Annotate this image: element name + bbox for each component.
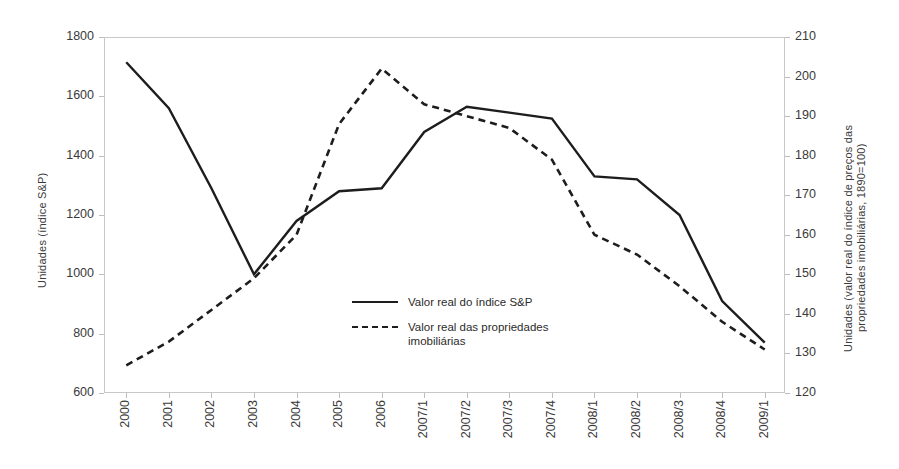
x-axis-tick-mark bbox=[637, 393, 638, 398]
y-right-tick-label: 150 bbox=[795, 266, 835, 280]
y-right-tick-label: 190 bbox=[795, 108, 835, 122]
y-left-tick-label: 1000 bbox=[48, 266, 94, 280]
x-axis-tick-mark bbox=[339, 393, 340, 398]
y-right-tick-mark bbox=[785, 77, 790, 78]
x-axis-tick: 2009/1 bbox=[757, 400, 771, 462]
x-axis-tick-label: 2009/1 bbox=[757, 400, 771, 438]
x-axis-tick: 2007/4 bbox=[544, 400, 558, 462]
y-right-tick-mark bbox=[785, 393, 790, 394]
x-axis-tick-label: 2007/4 bbox=[544, 400, 558, 438]
x-axis-tick-mark bbox=[211, 393, 212, 398]
y-left-tick-label: 600 bbox=[48, 385, 94, 399]
y-left-tick-mark bbox=[99, 393, 104, 394]
x-axis-tick: 2002 bbox=[203, 400, 217, 462]
x-axis-tick: 2007/3 bbox=[501, 400, 515, 462]
y-right-tick-label: 210 bbox=[795, 29, 835, 43]
y-left-tick-label: 800 bbox=[48, 326, 94, 340]
x-axis-tick: 2003 bbox=[246, 400, 260, 462]
x-axis-tick: 2008/3 bbox=[672, 400, 686, 462]
x-axis-tick-label: 2008/3 bbox=[672, 400, 686, 438]
x-axis-tick-mark bbox=[382, 393, 383, 398]
legend-item[interactable]: Valor real do índice S&P bbox=[352, 295, 612, 309]
line-chart: Unidades (índice S&P) Unidades (valor re… bbox=[0, 0, 899, 469]
x-axis-tick: 2005 bbox=[331, 400, 345, 462]
y-right-tick-label: 160 bbox=[795, 227, 835, 241]
y-right-tick-label: 130 bbox=[795, 345, 835, 359]
x-axis-tick: 2008/2 bbox=[629, 400, 643, 462]
y-right-tick-mark bbox=[785, 314, 790, 315]
y-right-tick-label: 180 bbox=[795, 148, 835, 162]
y-right-tick-mark bbox=[785, 156, 790, 157]
y-right-tick-label: 200 bbox=[795, 69, 835, 83]
dashed-line-swatch-icon bbox=[352, 320, 398, 334]
legend-item-label: Valor real do índice S&P bbox=[408, 295, 532, 309]
x-axis-tick-label: 2003 bbox=[246, 400, 260, 428]
x-axis-tick-mark bbox=[594, 393, 595, 398]
x-axis-tick: 2006 bbox=[374, 400, 388, 462]
legend-item-label: Valor real das propriedades imobiliárias bbox=[408, 320, 548, 348]
y-right-tick-mark bbox=[785, 353, 790, 354]
x-axis-tick-mark bbox=[297, 393, 298, 398]
x-axis-tick-mark bbox=[509, 393, 510, 398]
x-axis-tick-label: 2002 bbox=[203, 400, 217, 428]
x-axis-tick-mark bbox=[680, 393, 681, 398]
x-axis-tick-label: 2007/2 bbox=[459, 400, 473, 438]
x-axis-tick-label: 2001 bbox=[161, 400, 175, 428]
y-right-tick-label: 140 bbox=[795, 306, 835, 320]
y-right-tick-mark bbox=[785, 274, 790, 275]
x-axis-tick-mark bbox=[424, 393, 425, 398]
x-axis-tick-label: 2008/1 bbox=[586, 400, 600, 438]
x-axis-tick-label: 2007/1 bbox=[416, 400, 430, 438]
x-axis-tick-mark bbox=[765, 393, 766, 398]
y-right-tick-label: 120 bbox=[795, 385, 835, 399]
x-axis-tick-mark bbox=[467, 393, 468, 398]
chart-legend: Valor real do índice S&PValor real das p… bbox=[352, 295, 612, 359]
x-axis-tick: 2001 bbox=[161, 400, 175, 462]
y-right-tick-mark bbox=[785, 37, 790, 38]
y-right-tick-mark bbox=[785, 195, 790, 196]
y-right-tick-label: 170 bbox=[795, 187, 835, 201]
y-right-tick-mark bbox=[785, 116, 790, 117]
y-left-tick-label: 1400 bbox=[48, 148, 94, 162]
x-axis-tick-mark bbox=[254, 393, 255, 398]
y-left-tick-label: 1600 bbox=[48, 88, 94, 102]
y-right-tick-mark bbox=[785, 235, 790, 236]
x-axis-tick: 2004 bbox=[289, 400, 303, 462]
x-axis-tick: 2007/2 bbox=[459, 400, 473, 462]
x-axis-tick-label: 2004 bbox=[289, 400, 303, 428]
y-left-tick-label: 1800 bbox=[48, 29, 94, 43]
x-axis-tick-mark bbox=[722, 393, 723, 398]
x-axis-tick-label: 2008/4 bbox=[714, 400, 728, 438]
x-axis-tick-label: 2007/3 bbox=[501, 400, 515, 438]
x-axis-tick: 2008/1 bbox=[586, 400, 600, 462]
x-axis-tick: 2007/1 bbox=[416, 400, 430, 462]
x-axis-tick-mark bbox=[552, 393, 553, 398]
x-axis-tick: 2008/4 bbox=[714, 400, 728, 462]
x-axis-tick-label: 2008/2 bbox=[629, 400, 643, 438]
x-axis-tick-label: 2006 bbox=[374, 400, 388, 428]
y-left-tick-label: 1200 bbox=[48, 207, 94, 221]
y-axis-right-title: Unidades (valor real do índice de preços… bbox=[842, 88, 868, 388]
legend-item[interactable]: Valor real das propriedades imobiliárias bbox=[352, 320, 612, 348]
x-axis-tick-mark bbox=[169, 393, 170, 398]
x-axis-tick-label: 2005 bbox=[331, 400, 345, 428]
x-axis-tick-label: 2000 bbox=[118, 400, 132, 428]
solid-line-swatch-icon bbox=[352, 295, 398, 309]
x-axis-tick-mark bbox=[126, 393, 127, 398]
x-axis-tick: 2000 bbox=[118, 400, 132, 462]
